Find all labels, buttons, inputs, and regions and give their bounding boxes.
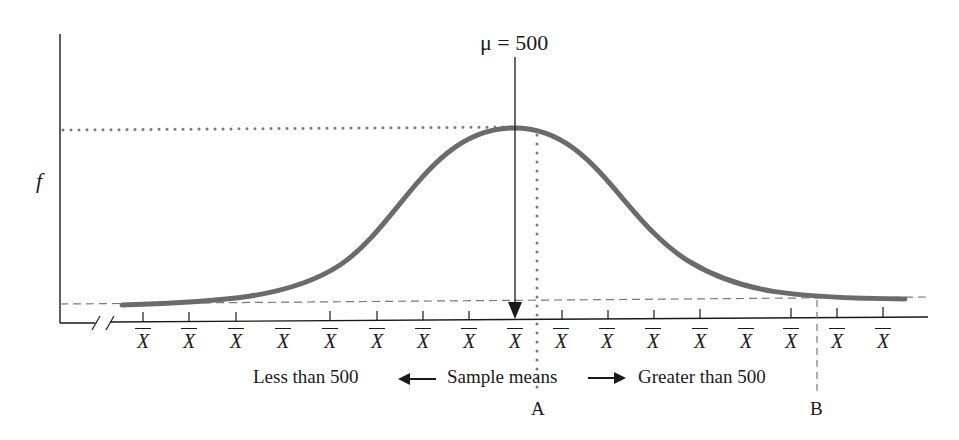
marker-b-label: B [810,398,823,420]
less-than-label: Less than 500 [253,366,359,388]
xbar-label: X [367,330,387,353]
xbar-label: X [273,330,293,353]
marker-a-label: A [531,398,545,420]
xbar-label: X [413,330,433,353]
xbar-label: X [781,330,801,353]
xbar-label: X [597,330,617,353]
left-arrowhead [398,373,410,385]
peak-frequency-dotted [63,127,512,130]
sample-means-label: Sample means [447,366,557,388]
x-axis [110,317,928,322]
y-axis-label: f [36,168,42,194]
right-arrowhead [614,372,626,384]
xbar-label: X [643,330,663,353]
xbar-label: X [459,330,479,353]
normal-curve [122,128,905,305]
mean-arrowhead [508,302,522,319]
xbar-label: X [873,330,893,353]
xbar-label: X [827,330,847,353]
xbar-label: X [736,330,756,353]
population-mean-label: μ = 500 [480,30,548,56]
xbar-label: X [179,330,199,353]
xbar-label: X [226,330,246,353]
xbar-label: X [505,330,525,353]
axis-break-mark-2 [106,316,114,330]
xbar-label: X [690,330,710,353]
xbar-label: X [320,330,340,353]
xbar-label: X [133,330,153,353]
greater-than-label: Greater than 500 [638,366,766,388]
xbar-label: X [551,330,571,353]
